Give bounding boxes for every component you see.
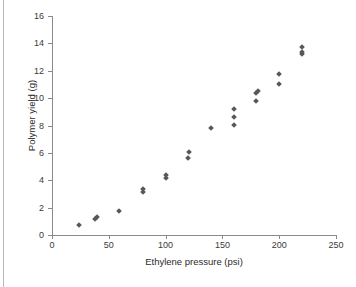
x-tick-mark bbox=[109, 235, 110, 239]
y-tick-label: 16 bbox=[34, 11, 44, 21]
y-tick-mark bbox=[48, 71, 52, 72]
y-tick-mark bbox=[48, 208, 52, 209]
x-tick-label: 100 bbox=[158, 240, 173, 250]
y-tick-mark bbox=[48, 235, 52, 236]
y-axis-line bbox=[52, 16, 53, 235]
y-tick-mark bbox=[48, 43, 52, 44]
y-tick-label: 4 bbox=[39, 175, 44, 185]
x-tick-mark bbox=[166, 235, 167, 239]
x-tick-label: 50 bbox=[104, 240, 114, 250]
x-axis-title: Ethylene pressure (psi) bbox=[52, 256, 336, 267]
x-tick-label: 200 bbox=[272, 240, 287, 250]
y-tick-mark bbox=[48, 126, 52, 127]
y-tick-label: 6 bbox=[39, 148, 44, 158]
y-tick-mark bbox=[48, 180, 52, 181]
plot-area bbox=[52, 16, 336, 235]
x-tick-mark bbox=[52, 235, 53, 239]
y-tick-label: 2 bbox=[39, 203, 44, 213]
scatter-plot-figure: 050100150200250 0246810121416 Ethylene p… bbox=[0, 0, 356, 287]
y-axis-title: Polymer yield (g) bbox=[26, 36, 37, 196]
y-tick-mark bbox=[48, 153, 52, 154]
y-tick-mark bbox=[48, 98, 52, 99]
y-tick-mark bbox=[48, 16, 52, 17]
x-axis-line bbox=[52, 235, 336, 236]
x-tick-mark bbox=[336, 235, 337, 239]
x-tick-mark bbox=[279, 235, 280, 239]
x-tick-label: 150 bbox=[215, 240, 230, 250]
x-tick-mark bbox=[222, 235, 223, 239]
x-tick-label: 0 bbox=[49, 240, 54, 250]
y-tick-label: 0 bbox=[39, 230, 44, 240]
x-tick-label: 250 bbox=[328, 240, 343, 250]
y-tick-label: 8 bbox=[39, 121, 44, 131]
